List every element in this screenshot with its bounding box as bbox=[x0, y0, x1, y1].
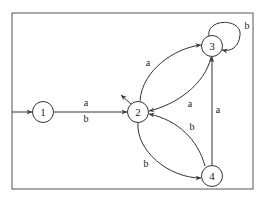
edge-2-3-label: a bbox=[146, 57, 151, 68]
node-3-label: 3 bbox=[209, 40, 215, 52]
node-2: 2 bbox=[128, 102, 149, 123]
node-2-label: 2 bbox=[135, 106, 141, 118]
edge-2-4-label: b bbox=[144, 158, 149, 169]
node-1-label: 1 bbox=[40, 106, 46, 118]
node-4-label: 4 bbox=[209, 170, 215, 182]
edge-2-3 bbox=[140, 45, 201, 101]
node-1: 1 bbox=[33, 102, 54, 123]
automaton-diagram: a b a a b b b a 1 2 3 4 bbox=[0, 0, 265, 201]
edge-4-2-label: b bbox=[190, 121, 195, 132]
edge-4-3-label: a bbox=[216, 104, 221, 115]
edge-3-2-label: a bbox=[188, 98, 193, 109]
edge-1-2-label-a: a bbox=[84, 97, 89, 108]
final-state-arrow bbox=[121, 95, 131, 104]
edge-3-3-label: b bbox=[245, 20, 250, 31]
node-3: 3 bbox=[202, 36, 223, 57]
node-4: 4 bbox=[202, 166, 223, 187]
edge-1-2-label-b: b bbox=[84, 113, 89, 124]
edge-4-2 bbox=[149, 114, 205, 166]
